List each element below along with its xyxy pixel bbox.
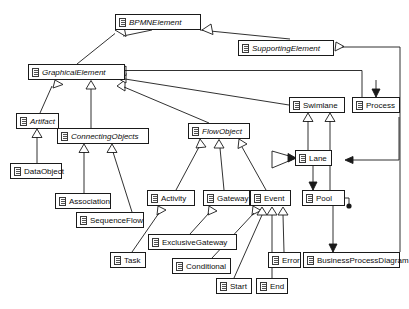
class-box-bpmnelement[interactable]: BPMNElement: [115, 14, 201, 30]
class-label: ConnectingObjects: [71, 132, 139, 141]
edge-error-event: [283, 215, 284, 252]
edge-artifact-graphicalelement: [40, 86, 52, 113]
edge-graphicalelement-bpmnelement-tail: [77, 34, 115, 65]
arrow-generalization-graphicalelement-artifact: [53, 80, 63, 88]
class-label: Start: [230, 282, 247, 291]
class-icon: [307, 256, 314, 265]
class-label: Activity: [161, 194, 186, 203]
class-box-graphicalelement[interactable]: GraphicalElement: [28, 64, 125, 80]
class-box-supportingelement[interactable]: SupportingElement: [238, 40, 334, 56]
arrow-generalization-swimlane-lane: [303, 113, 313, 122]
arrow-generalization-gateway-exclusivegateway: [208, 206, 217, 215]
class-label: Task: [124, 256, 140, 265]
class-icon: [61, 132, 68, 141]
class-label: GraphicalElement: [42, 68, 106, 77]
class-icon: [80, 216, 87, 225]
class-icon: [152, 238, 159, 247]
edge-activity-flowobject: [176, 147, 199, 190]
class-icon: [20, 117, 27, 126]
edge-start-event: [234, 215, 262, 278]
arrow-composition-process: [372, 89, 380, 97]
class-box-exclusivegateway[interactable]: ExclusiveGateway: [148, 234, 237, 250]
class-label: Process: [366, 101, 395, 110]
class-box-process[interactable]: Process: [352, 97, 400, 113]
class-label: Swimlane: [303, 101, 338, 110]
arrow-generalization-flowobject-event: [238, 139, 247, 149]
edge-gateway-flowobject: [220, 148, 224, 190]
class-box-lane[interactable]: Lane: [295, 150, 332, 166]
edge-pool-dot: [345, 198, 349, 206]
class-box-pool[interactable]: Pool: [302, 190, 345, 206]
class-label: Event: [264, 194, 284, 203]
class-label: SequenceFlow: [90, 216, 143, 225]
class-icon: [176, 262, 183, 271]
class-label: BusinessProcessDiagram: [317, 256, 409, 265]
edge-exclusivegateway-gateway: [190, 213, 209, 234]
diamond-composition-lane-open: [272, 151, 296, 168]
arrow-composition-bpd: [329, 244, 337, 252]
class-box-businessprocessdiagram[interactable]: BusinessProcessDiagram: [303, 252, 400, 268]
arrow-generalization-event-end: [267, 207, 277, 215]
class-icon: [299, 154, 306, 163]
class-icon: [59, 197, 66, 206]
arrow-composition-pool: [345, 157, 353, 164]
class-icon: [192, 127, 199, 136]
class-box-dataobject[interactable]: DataObject: [10, 163, 62, 179]
class-label: Lane: [309, 154, 327, 163]
edge-graphicalelement-bpmnelement: [123, 30, 152, 36]
edge-event-flowobject: [242, 147, 266, 190]
class-box-end[interactable]: End: [256, 278, 288, 294]
class-icon: [260, 282, 267, 291]
class-label: Association: [69, 197, 110, 206]
class-label: Artifact: [30, 117, 55, 126]
class-icon: [306, 194, 313, 203]
class-icon: [119, 18, 126, 27]
arrow-generalization-connecting-association: [79, 144, 89, 153]
class-icon: [293, 101, 300, 110]
class-icon: [151, 194, 158, 203]
class-label: Error: [282, 256, 300, 265]
class-box-gateway[interactable]: Gateway: [203, 190, 250, 206]
uml-class-diagram: BPMNElement SupportingElement GraphicalE…: [0, 0, 409, 309]
arrow-generalization-event-start: [257, 207, 267, 215]
edge-swimlane-graphicalelement: [125, 79, 289, 105]
class-box-event[interactable]: Event: [250, 190, 291, 206]
class-icon: [207, 194, 214, 203]
class-box-start[interactable]: Start: [216, 278, 252, 294]
class-icon: [14, 167, 21, 176]
class-box-error[interactable]: Error: [268, 252, 301, 268]
arrow-generalization-flowobject-gateway: [214, 140, 224, 149]
class-icon: [272, 256, 279, 265]
class-box-artifact[interactable]: Artifact: [16, 113, 59, 129]
arrow-generalization-graphicalelement-flowobject: [117, 80, 125, 91]
arrow-generalization-supportingelement-bpd: [335, 42, 344, 51]
arrow-generalization-event-conditional: [252, 206, 261, 215]
class-label: ExclusiveGateway: [162, 238, 227, 247]
arrow-composition-lane-pool: [309, 182, 317, 190]
class-icon: [254, 194, 261, 203]
class-icon: [242, 44, 249, 53]
class-box-swimlane[interactable]: Swimlane: [289, 97, 345, 113]
arrow-generalization-graphicalelement-connecting: [86, 81, 96, 90]
class-label: Conditional: [186, 262, 226, 271]
arrow-generalization-bpmnelement-right: [202, 24, 213, 35]
class-label: FlowObject: [202, 127, 242, 136]
class-label: Gateway: [217, 194, 249, 203]
class-icon: [220, 282, 227, 291]
class-label: Pool: [316, 194, 332, 203]
connector-dot-pool: [346, 203, 351, 208]
class-box-conditional[interactable]: Conditional: [172, 258, 231, 274]
class-box-sequenceflow[interactable]: SequenceFlow: [76, 212, 144, 228]
class-icon: [32, 68, 39, 77]
class-box-activity[interactable]: Activity: [147, 190, 195, 206]
class-label: BPMNElement: [129, 18, 181, 27]
arrow-generalization-connecting-sequenceflow: [107, 144, 117, 153]
arrow-generalization-flowobject-activity: [196, 139, 206, 148]
class-box-connectingobjects[interactable]: ConnectingObjects: [57, 128, 149, 144]
class-box-association[interactable]: Association: [55, 193, 111, 209]
class-box-flowobject[interactable]: FlowObject: [188, 123, 250, 139]
class-icon: [114, 256, 121, 265]
class-label: SupportingElement: [252, 44, 320, 53]
class-label: End: [270, 282, 284, 291]
class-box-task[interactable]: Task: [110, 252, 146, 268]
